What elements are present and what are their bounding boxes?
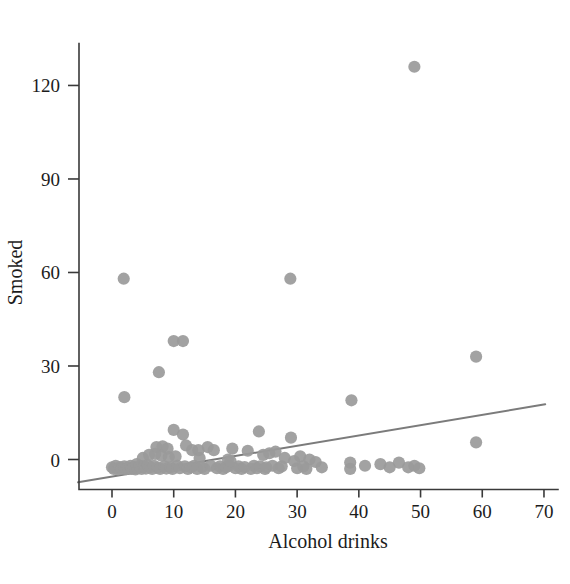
scatter-plot-figure: 0102030405060700306090120Alcohol drinksS…: [0, 0, 570, 584]
data-point: [285, 432, 297, 444]
data-point: [208, 444, 220, 456]
data-point: [242, 445, 254, 457]
data-point: [284, 273, 296, 285]
x-tick-label: 70: [534, 501, 553, 522]
x-axis-title: Alcohol drinks: [268, 530, 388, 552]
data-point: [253, 425, 265, 437]
plot-canvas: 0102030405060700306090120Alcohol drinksS…: [0, 0, 570, 584]
x-tick-label: 60: [473, 501, 492, 522]
x-tick-label: 0: [107, 501, 117, 522]
data-point: [359, 460, 371, 472]
y-axis-title: Smoked: [4, 240, 26, 306]
data-point: [192, 444, 204, 456]
x-tick-label: 10: [164, 501, 183, 522]
data-point: [226, 442, 238, 454]
y-tick-label: 120: [32, 75, 61, 96]
y-tick-label: 90: [41, 169, 60, 190]
data-point: [413, 462, 425, 474]
x-tick-label: 30: [288, 501, 307, 522]
data-point: [177, 428, 189, 440]
y-tick-label: 60: [41, 262, 60, 283]
axis-spines: [79, 43, 558, 489]
data-point: [408, 61, 420, 73]
data-point: [276, 460, 288, 472]
y-tick-label: 0: [51, 450, 61, 471]
data-point: [345, 394, 357, 406]
data-point: [470, 436, 482, 448]
data-point: [118, 273, 130, 285]
x-tick-label: 20: [226, 501, 245, 522]
data-point: [470, 351, 482, 363]
data-points-group: [106, 61, 482, 476]
data-point: [344, 463, 356, 475]
data-point: [153, 366, 165, 378]
data-point: [316, 461, 328, 473]
x-tick-label: 40: [349, 501, 368, 522]
x-tick-label: 50: [411, 501, 430, 522]
data-point: [224, 455, 236, 467]
axes-group: [68, 43, 558, 497]
data-point: [118, 391, 130, 403]
data-point: [177, 335, 189, 347]
y-tick-label: 30: [41, 356, 60, 377]
data-point: [300, 463, 312, 475]
